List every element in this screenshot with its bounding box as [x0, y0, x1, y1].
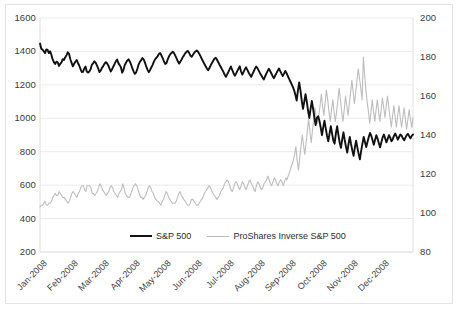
legend-swatch-proshares-icon: [207, 236, 229, 237]
legend-item-sp500[interactable]: S&P 500: [130, 231, 191, 241]
y-axis-left-tick-label: 600: [2, 179, 36, 190]
y-axis-left-tick-label: 1600: [2, 12, 36, 23]
series-line-proshares-inverse-sp500: [40, 57, 413, 207]
y-axis-left-tick-label: 1400: [2, 45, 36, 56]
y-axis-right-tick-label: 200: [420, 12, 454, 23]
chart-legend: S&P 500 ProShares Inverse S&P 500: [130, 231, 346, 241]
y-axis-right-tick-label: 100: [420, 207, 454, 218]
y-axis-right-tick-label: 180: [420, 51, 454, 62]
legend-swatch-sp500-icon: [130, 235, 152, 237]
y-axis-right-tick-label: 140: [420, 129, 454, 140]
y-axis-right-tick-label: 160: [420, 90, 454, 101]
chart-container: 2004006008001000120014001600 80100120140…: [0, 0, 459, 310]
y-axis-right-tick-label: 80: [420, 246, 454, 257]
legend-label-sp500: S&P 500: [156, 231, 191, 241]
legend-item-proshares-inverse-sp500[interactable]: ProShares Inverse S&P 500: [207, 231, 345, 241]
series-line-sp500: [40, 44, 413, 160]
y-axis-right-tick-label: 120: [420, 168, 454, 179]
y-axis-left-tick-label: 200: [2, 246, 36, 257]
y-axis-left-tick-label: 400: [2, 213, 36, 224]
y-axis-left-tick-label: 1200: [2, 79, 36, 90]
legend-label-proshares-inverse-sp500: ProShares Inverse S&P 500: [233, 231, 345, 241]
y-axis-left-tick-label: 800: [2, 146, 36, 157]
gridlines: [40, 18, 413, 252]
y-axis-left-tick-label: 1000: [2, 112, 36, 123]
axis-lines: [40, 18, 413, 252]
